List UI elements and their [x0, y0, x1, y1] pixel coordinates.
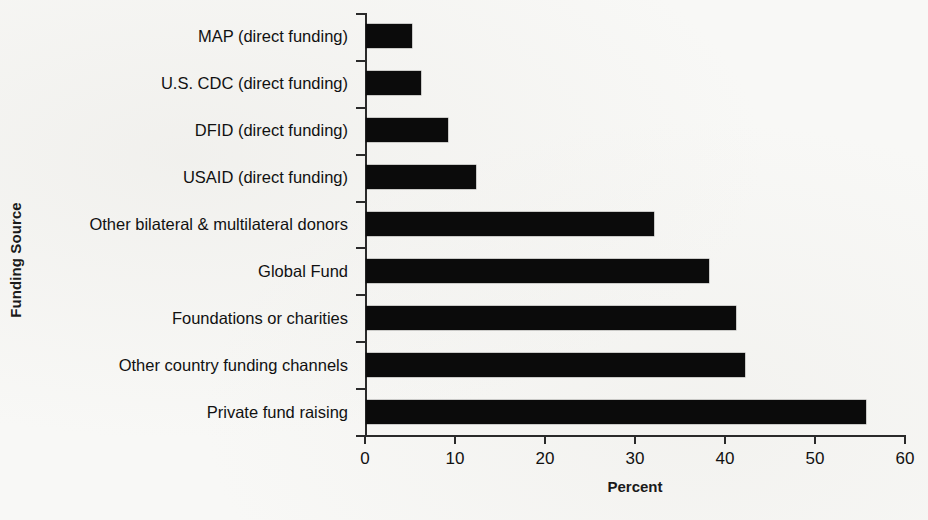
- x-axis-tick: [544, 435, 546, 444]
- bar: [366, 24, 412, 48]
- x-axis-tick-label: 0: [335, 449, 395, 469]
- bar: [366, 118, 448, 142]
- category-label: Foundations or charities: [30, 310, 348, 327]
- x-axis-tick: [634, 435, 636, 444]
- x-axis-tick-label: 50: [785, 449, 845, 469]
- y-axis-tick: [356, 201, 365, 203]
- x-axis-tick-label: 10: [425, 449, 485, 469]
- x-axis-tick: [724, 435, 726, 444]
- category-label: Global Fund: [30, 263, 348, 280]
- y-axis-tick: [356, 13, 365, 15]
- category-label: USAID (direct funding): [30, 169, 348, 186]
- bar: [366, 259, 709, 283]
- y-axis-tick: [356, 435, 365, 437]
- x-axis-tick-label: 30: [605, 449, 665, 469]
- bar: [366, 400, 866, 424]
- bar: [366, 212, 654, 236]
- y-axis-tick: [356, 388, 365, 390]
- bar-chart: Funding Source MAP (direct funding)U.S. …: [0, 0, 928, 520]
- bar: [366, 306, 736, 330]
- category-label: Private fund raising: [30, 404, 348, 421]
- y-axis-tick: [356, 154, 365, 156]
- bar: [366, 165, 476, 189]
- x-axis-tick-label: 20: [515, 449, 575, 469]
- category-label: MAP (direct funding): [30, 28, 348, 45]
- category-label-group: MAP (direct funding)U.S. CDC (direct fun…: [30, 13, 357, 435]
- x-axis-tick: [904, 435, 906, 444]
- x-axis-title: Percent: [365, 478, 905, 495]
- bar: [366, 353, 745, 377]
- x-axis-tick: [814, 435, 816, 444]
- y-axis-title: Funding Source: [0, 0, 30, 520]
- y-axis-tick: [356, 107, 365, 109]
- y-axis-tick: [356, 294, 365, 296]
- plot-area: 0102030405060: [365, 13, 905, 435]
- category-label: U.S. CDC (direct funding): [30, 75, 348, 92]
- x-axis-tick: [454, 435, 456, 444]
- x-axis-tick-label: 60: [875, 449, 928, 469]
- category-label: Other bilateral & multilateral donors: [30, 216, 348, 233]
- y-axis-tick: [356, 60, 365, 62]
- category-label: DFID (direct funding): [30, 122, 348, 139]
- x-axis-tick-label: 40: [695, 449, 755, 469]
- bar: [366, 71, 421, 95]
- y-axis-tick: [356, 247, 365, 249]
- y-axis-tick: [356, 341, 365, 343]
- category-label: Other country funding channels: [30, 357, 348, 374]
